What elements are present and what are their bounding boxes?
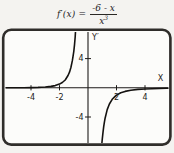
y-tick-label: 4 bbox=[78, 54, 83, 63]
x-axis-label: X bbox=[158, 74, 164, 83]
x-tick-label: -2 bbox=[56, 93, 64, 102]
graph-svg: -4-2244-4XY′ bbox=[0, 0, 174, 153]
x-tick-label: -4 bbox=[27, 93, 35, 102]
figure: f′(x) = -6 - x x3 -4-2244-4XY′ bbox=[0, 0, 174, 153]
y-axis-label: Y′ bbox=[91, 33, 99, 42]
y-tick-label: -4 bbox=[76, 113, 84, 122]
x-tick-label: 2 bbox=[114, 93, 119, 102]
x-tick-label: 4 bbox=[142, 93, 147, 102]
